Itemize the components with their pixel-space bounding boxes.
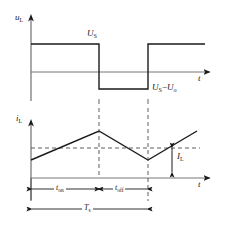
high-level-label: US (87, 29, 97, 38)
waveform-figure: uL t US US−Uo iL t IL ton toff Ts (0, 0, 226, 225)
bottom-y-axis-label: iL (16, 114, 22, 123)
top-y-axis-label: uL (15, 13, 23, 22)
top-x-axis-label: t (198, 74, 201, 83)
bottom-x-axis-label: t (198, 180, 201, 189)
t-on-label: ton (54, 184, 66, 192)
top-panel-group (28, 14, 210, 104)
inductor-voltage-waveform (31, 44, 205, 89)
t-off-label: toff (113, 184, 125, 192)
t-switch-label: Ts (82, 204, 93, 212)
ripple-current-label: IL (177, 152, 184, 161)
low-level-label: US−Uo (152, 83, 177, 92)
